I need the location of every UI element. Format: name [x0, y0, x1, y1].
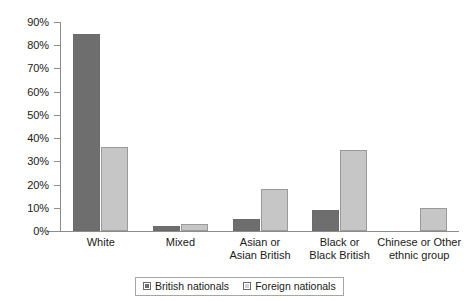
bar-foreign-nationals [420, 208, 447, 231]
bar-foreign-nationals [181, 224, 208, 231]
y-axis-tick [54, 231, 61, 232]
x-axis-category-label-line: ethnic group [367, 249, 469, 262]
y-axis-tick-label: 50% [5, 110, 49, 121]
y-axis-tick [54, 138, 61, 139]
y-axis-tick-label: 10% [5, 203, 49, 214]
y-axis-tick-label: 30% [5, 156, 49, 167]
y-axis-tick [54, 22, 61, 23]
y-axis-tick-label: 0% [5, 226, 49, 237]
bar-group [312, 22, 367, 231]
chart-legend: British nationals Foreign nationals [135, 277, 344, 296]
y-axis-tick [54, 185, 61, 186]
y-axis-tick-label: 80% [5, 40, 49, 51]
y-axis-tick [54, 68, 61, 69]
plot-area [61, 22, 459, 231]
legend-label-british-nationals: British nationals [155, 280, 229, 292]
bar-british-nationals [312, 210, 339, 231]
bar-british-nationals [73, 34, 100, 231]
bar-group [153, 22, 208, 231]
bar-foreign-nationals [340, 150, 367, 231]
y-axis-tick-label: 40% [5, 133, 49, 144]
y-axis-tick [54, 208, 61, 209]
x-axis-category-label: Chinese or Otherethnic group [367, 236, 469, 261]
legend-swatch-icon-british-nationals [143, 282, 151, 290]
y-axis-tick [54, 45, 61, 46]
legend-swatch-icon-foreign-nationals [243, 282, 251, 290]
bar-foreign-nationals [101, 147, 128, 231]
x-axis-category-label-line: Chinese or Other [367, 236, 469, 249]
bar-chart: 90%80%70%60%50%40%30%20%10%0% WhiteMixed… [0, 0, 469, 301]
y-axis-tick-label: 70% [5, 63, 49, 74]
bar-british-nationals [153, 226, 180, 231]
legend-entry-foreign-nationals: Foreign nationals [243, 280, 336, 292]
bar-group [392, 22, 447, 231]
y-axis-tick-label: 60% [5, 87, 49, 98]
y-axis-tick-label: 20% [5, 180, 49, 191]
y-axis-tick-label: 90% [5, 17, 49, 28]
x-axis-line [47, 231, 459, 232]
y-axis-tick [54, 115, 61, 116]
bar-group [73, 22, 128, 231]
bar-foreign-nationals [261, 189, 288, 231]
y-axis-tick [54, 92, 61, 93]
bar-group [233, 22, 288, 231]
bar-british-nationals [233, 219, 260, 231]
legend-entry-british-nationals: British nationals [143, 280, 229, 292]
y-axis-tick [54, 161, 61, 162]
legend-label-foreign-nationals: Foreign nationals [255, 280, 336, 292]
